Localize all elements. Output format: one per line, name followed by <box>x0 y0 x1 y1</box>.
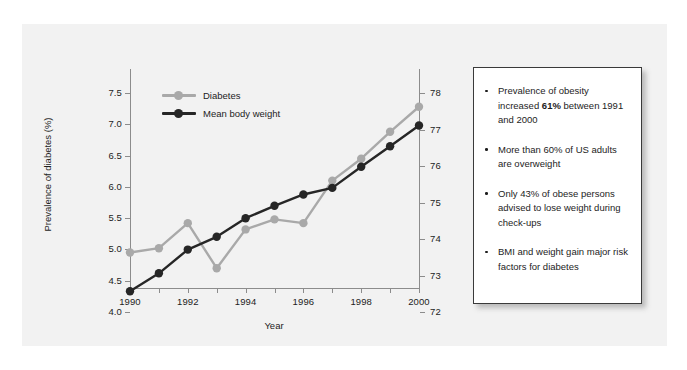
callout-bullet-text: More than 60% of US adults are overweigh… <box>498 144 617 170</box>
legend-marker-icon <box>162 107 196 119</box>
data-point <box>357 163 365 171</box>
data-point <box>299 190 307 198</box>
data-point <box>299 219 307 227</box>
data-point <box>270 215 278 223</box>
data-point <box>386 128 394 136</box>
data-point <box>415 103 423 111</box>
data-point <box>328 184 336 192</box>
data-point <box>328 176 336 184</box>
data-point <box>415 121 423 129</box>
callout-bullet-item: More than 60% of US adults are overweigh… <box>484 143 631 172</box>
bullet-point-icon <box>485 90 488 93</box>
bullet-point-icon <box>485 148 488 151</box>
legend-marker-icon <box>162 89 196 101</box>
callout-bullet-item: BMI and weight gain major risk factors f… <box>484 245 631 274</box>
data-point <box>126 248 134 256</box>
data-point <box>241 214 249 222</box>
y-axis-left-title: Prevalence of diabetes (%) <box>42 110 53 240</box>
data-point <box>184 219 192 227</box>
callout-bullet-item: Prevalence of obesity increased 61% betw… <box>484 84 631 128</box>
callout-bullet-list: Prevalence of obesity increased 61% betw… <box>474 68 641 274</box>
data-point <box>357 155 365 163</box>
data-point <box>213 264 221 272</box>
chart-legend: DiabetesMean body weight <box>162 86 280 122</box>
callout-bullet-text: BMI and weight gain major risk factors f… <box>498 246 628 272</box>
data-point <box>270 202 278 210</box>
figure-panel: 4.04.55.05.56.06.57.07.5 72737475767778 … <box>22 24 667 346</box>
data-point <box>386 142 394 150</box>
bullet-point-icon <box>485 251 488 254</box>
legend-item-mean-body-weight: Mean body weight <box>162 104 280 122</box>
data-point <box>241 225 249 233</box>
bullet-point-icon <box>485 192 488 195</box>
legend-item-label: Diabetes <box>203 90 241 101</box>
plot-series <box>22 24 462 346</box>
data-point <box>155 269 163 277</box>
series-line-diabetes <box>130 107 419 268</box>
callout-bullet-text: 61% <box>542 100 561 111</box>
callout-bullet-item: Only 43% of obese persons advised to los… <box>484 187 631 231</box>
chart-area: 4.04.55.05.56.06.57.07.5 72737475767778 … <box>22 24 462 346</box>
callout-box: Prevalence of obesity increased 61% betw… <box>473 67 642 304</box>
data-point <box>126 287 134 295</box>
legend-item-label: Mean body weight <box>203 108 280 119</box>
data-point <box>184 245 192 253</box>
legend-item-diabetes: Diabetes <box>162 86 280 104</box>
callout-bullet-text: Only 43% of obese persons advised to los… <box>498 188 621 228</box>
x-axis-title: Year <box>234 320 314 331</box>
data-point <box>213 233 221 241</box>
data-point <box>155 244 163 252</box>
